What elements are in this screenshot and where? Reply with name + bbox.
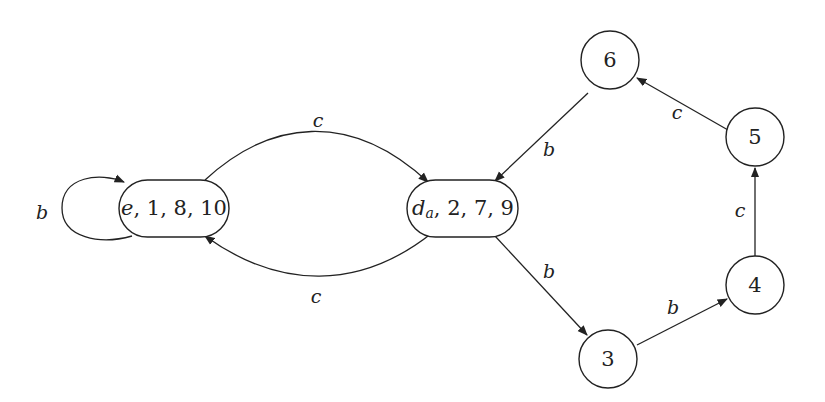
edge-6-to-d (495, 93, 588, 181)
edge-label-e-self: b (36, 201, 48, 223)
edge-label-4-to-5: c (735, 199, 746, 221)
node-e-label: e, 1, 8, 10 (121, 196, 227, 220)
node-4-label: 4 (748, 273, 761, 297)
edge-d-to-e (205, 233, 432, 276)
node-6-label: 6 (603, 48, 616, 72)
node-3-label: 3 (601, 347, 614, 371)
node-6: 6 (581, 31, 639, 89)
edge-5-to-6 (637, 78, 728, 130)
node-d: da, 2, 7, 9 (407, 180, 518, 237)
edge-label-3-to-4: b (667, 296, 679, 318)
edge-label-e-to-d: c (313, 109, 324, 131)
edge-label-6-to-d: b (543, 138, 555, 160)
edge-e-to-d (205, 131, 428, 182)
edge-d-to-3 (495, 236, 587, 335)
node-5: 5 (726, 108, 784, 166)
state-diagram: b c c b b b c c e, 1, 8, 10 da, 2, 7, 9 … (0, 0, 825, 402)
edge-3-to-4 (637, 299, 727, 345)
edge-label-d-to-3: b (543, 260, 555, 282)
edge-label-5-to-6: c (672, 101, 683, 123)
node-3: 3 (579, 330, 637, 388)
edge-label-d-to-e: c (311, 285, 322, 307)
node-4: 4 (726, 256, 784, 314)
node-e: e, 1, 8, 10 (119, 180, 229, 237)
node-5-label: 5 (748, 125, 761, 149)
